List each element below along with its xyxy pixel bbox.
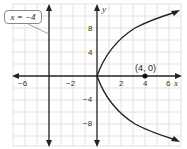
y-axis-label: y (102, 5, 106, 14)
y-tick-label: 8 (88, 25, 92, 33)
y-tick-label: −4 (83, 96, 92, 104)
x-tick-label: 6 (166, 80, 170, 88)
curve-arrow-top (171, 10, 180, 16)
x-tick-label: 2 (119, 80, 123, 88)
y-tick-label: −8 (83, 120, 92, 128)
x-tick-label: −6 (18, 80, 27, 88)
focus-point-label: (4, 0) (135, 64, 156, 73)
callout-pointer (28, 24, 49, 34)
y-tick-label: 4 (88, 49, 92, 57)
curve-arrow-bottom (171, 136, 180, 142)
x-tick-label: 4 (143, 80, 147, 88)
focus-point (143, 74, 148, 79)
x-tick-label: −2 (66, 80, 75, 88)
x-axis-label: x (174, 79, 178, 88)
directrix-callout: x = −4 (4, 10, 42, 24)
